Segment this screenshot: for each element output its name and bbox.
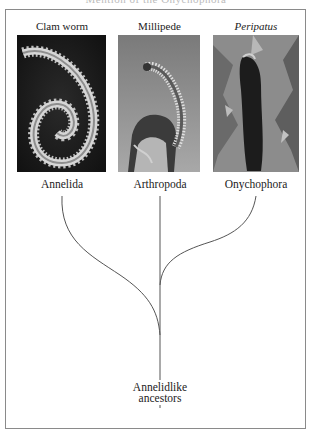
root-label-line2: ancestors xyxy=(110,393,210,404)
branch-onychophora xyxy=(160,196,256,285)
branch-annelida xyxy=(62,196,160,335)
root-label: Annelidlike ancestors xyxy=(110,382,210,404)
